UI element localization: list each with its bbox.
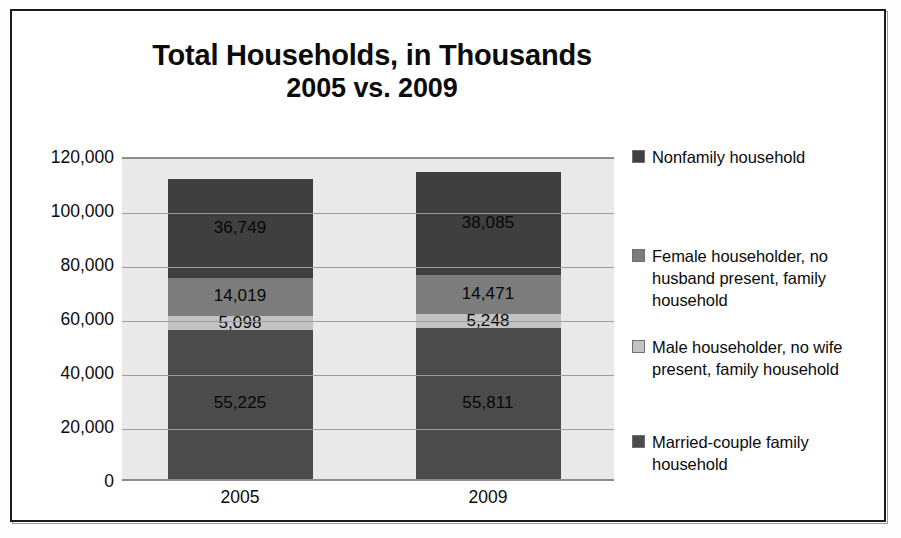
legend-swatch-icon xyxy=(632,340,645,353)
y-axis-tick-label: 0 xyxy=(26,471,114,492)
gridline xyxy=(122,267,614,268)
bar-value-label: 36,749 xyxy=(214,218,267,238)
y-axis-tick-label: 80,000 xyxy=(26,255,114,276)
bar-segment[interactable]: 55,811 xyxy=(416,328,561,479)
chart-screenshot: Total Households, in Thousands 2005 vs. … xyxy=(0,0,901,538)
legend-item-3[interactable]: Married-couple family household xyxy=(632,432,880,476)
bar-segment[interactable]: 36,749 xyxy=(168,179,313,278)
bar-value-label: 14,019 xyxy=(214,286,267,306)
bar-value-label: 55,225 xyxy=(214,393,267,413)
bar-segment[interactable]: 38,085 xyxy=(416,172,561,275)
gridline xyxy=(122,375,614,376)
bar-value-label: 38,085 xyxy=(462,213,515,233)
bar-value-label: 55,811 xyxy=(462,393,513,413)
gridline xyxy=(122,429,614,430)
x-axis-label-2005: 2005 xyxy=(168,487,313,508)
y-axis-tick-label: 60,000 xyxy=(26,309,114,330)
legend-item-2[interactable]: Male householder, no wife present, famil… xyxy=(632,337,880,381)
legend-swatch-icon xyxy=(632,249,645,262)
gridline xyxy=(122,213,614,214)
chart-title: Total Households, in Thousands 2005 vs. … xyxy=(122,39,622,104)
x-axis-label-2009: 2009 xyxy=(416,487,561,508)
bar-value-label: 14,471 xyxy=(462,284,515,304)
gridline xyxy=(122,321,614,322)
bar-segment[interactable]: 14,019 xyxy=(168,278,313,316)
legend-swatch-icon xyxy=(632,435,645,448)
y-axis: 120,000100,00080,00060,00040,00020,0000 xyxy=(26,157,114,481)
legend-label: Female householder, no husband present, … xyxy=(652,246,880,311)
legend-item-0[interactable]: Nonfamily household xyxy=(632,147,805,169)
chart-title-line-2: 2005 vs. 2009 xyxy=(122,73,622,104)
y-axis-tick-label: 40,000 xyxy=(26,363,114,384)
bar-segment[interactable]: 55,225 xyxy=(168,330,313,479)
y-axis-tick-label: 100,000 xyxy=(26,201,114,222)
bar-segment[interactable]: 5,098 xyxy=(168,316,313,330)
chart-title-line-1: Total Households, in Thousands xyxy=(122,39,622,73)
plot-area: 36,74914,0195,09855,22538,08514,4715,248… xyxy=(122,157,614,481)
stacked-bar-2005[interactable]: 36,74914,0195,09855,225 xyxy=(168,179,313,479)
legend-item-1[interactable]: Female householder, no husband present, … xyxy=(632,246,880,311)
chart-legend: Nonfamily householdFemale householder, n… xyxy=(632,147,882,487)
legend-label: Married-couple family household xyxy=(652,432,880,476)
y-axis-tick-label: 20,000 xyxy=(26,417,114,438)
x-axis: 20052009 xyxy=(122,487,614,517)
bar-group: 36,74914,0195,09855,22538,08514,4715,248… xyxy=(122,159,614,479)
legend-label: Nonfamily household xyxy=(652,147,805,169)
legend-label: Male householder, no wife present, famil… xyxy=(652,337,880,381)
y-axis-tick-label: 120,000 xyxy=(26,147,114,168)
stacked-bar-2009[interactable]: 38,08514,4715,24855,811 xyxy=(416,172,561,479)
chart-frame: Total Households, in Thousands 2005 vs. … xyxy=(10,9,886,522)
legend-swatch-icon xyxy=(632,150,645,163)
bar-segment[interactable]: 14,471 xyxy=(416,275,561,314)
